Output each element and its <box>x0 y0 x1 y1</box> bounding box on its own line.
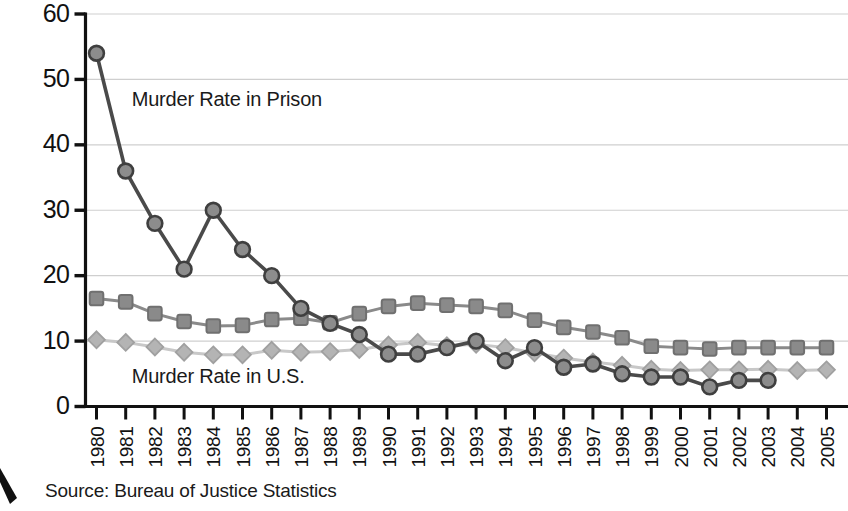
data-point-circle <box>264 268 279 283</box>
data-point-square <box>440 298 454 312</box>
line-chart-plot: 0102030405060198019811982198319841985198… <box>0 0 848 511</box>
x-axis-label: 1984 <box>203 426 224 468</box>
y-axis-label: 10 <box>43 326 70 354</box>
x-axis-label: 1996 <box>554 427 575 468</box>
data-point-diamond <box>88 331 105 348</box>
data-point-square <box>469 300 483 314</box>
data-point-diamond <box>117 334 134 351</box>
data-point-circle <box>702 379 717 394</box>
x-axis-label: 1982 <box>145 427 166 468</box>
data-point-square <box>177 315 191 329</box>
data-point-square <box>499 304 513 318</box>
data-point-circle <box>673 370 688 385</box>
series-annotation-1: Murder Rate in Prison <box>132 88 322 110</box>
x-axis-label: 2005 <box>817 427 838 468</box>
data-point-square <box>411 296 425 310</box>
data-point-circle <box>732 373 747 388</box>
x-axis-label: 1992 <box>437 427 458 468</box>
data-point-circle <box>89 46 104 61</box>
x-axis-label: 1991 <box>408 427 429 468</box>
series-annotation-2: Murder Rate in U.S. <box>132 365 305 387</box>
data-point-square <box>761 341 775 355</box>
data-point-circle <box>177 262 192 277</box>
data-point-square <box>528 313 542 327</box>
y-axis-label: 50 <box>43 64 70 92</box>
data-point-square <box>148 307 162 321</box>
data-point-square <box>207 319 221 333</box>
data-point-square <box>732 341 746 355</box>
x-axis-label: 2004 <box>787 426 808 468</box>
data-point-square <box>557 321 571 335</box>
data-point-square <box>90 292 104 306</box>
data-point-diamond <box>176 344 193 361</box>
data-point-circle <box>615 366 630 381</box>
data-point-circle <box>323 316 338 331</box>
data-point-square <box>645 340 659 354</box>
data-point-circle <box>118 164 133 179</box>
data-point-circle <box>469 334 484 349</box>
data-point-diamond <box>293 344 310 361</box>
y-axis-label: 20 <box>43 260 70 288</box>
data-point-square <box>353 307 367 321</box>
x-axis-label: 1988 <box>320 427 341 468</box>
x-axis-label: 1981 <box>116 427 137 468</box>
data-point-diamond <box>234 346 251 363</box>
data-point-circle <box>644 370 659 385</box>
x-axis-label: 1987 <box>291 427 312 468</box>
data-point-circle <box>761 373 776 388</box>
data-point-circle <box>352 327 367 342</box>
x-axis-label: 1999 <box>641 427 662 468</box>
data-point-diamond <box>789 362 806 379</box>
data-point-circle <box>294 301 309 316</box>
data-point-square <box>382 300 396 314</box>
y-axis-label: 30 <box>43 195 70 223</box>
x-axis-label: 1985 <box>233 427 254 468</box>
data-point-diamond <box>701 361 718 378</box>
x-axis-label: 1997 <box>583 427 604 468</box>
data-point-circle <box>148 216 163 231</box>
x-axis-label: 1989 <box>349 427 370 468</box>
x-axis-label: 2001 <box>700 427 721 468</box>
y-axis-label: 40 <box>43 129 70 157</box>
data-point-square <box>586 325 600 339</box>
page-corner-mark <box>0 468 20 504</box>
data-point-square <box>820 341 834 355</box>
data-point-circle <box>206 203 221 218</box>
x-axis-label: 2002 <box>729 427 750 468</box>
data-point-circle <box>381 347 396 362</box>
data-point-square <box>265 313 279 327</box>
data-point-square <box>791 341 805 355</box>
data-point-square <box>236 319 250 333</box>
data-point-diamond <box>205 346 222 363</box>
x-axis-label: 2000 <box>671 427 692 468</box>
x-axis-label: 1998 <box>612 427 633 468</box>
data-point-circle <box>586 357 601 372</box>
x-axis-label: 1994 <box>495 426 516 468</box>
data-point-circle <box>410 347 425 362</box>
data-point-diamond <box>322 343 339 360</box>
data-point-diamond <box>263 342 280 359</box>
data-point-diamond <box>818 361 835 378</box>
source-caption: Source: Bureau of Justice Statistics <box>45 480 337 502</box>
data-point-square <box>674 341 688 355</box>
x-axis-label: 1983 <box>174 427 195 468</box>
x-axis-label: 2003 <box>758 427 779 468</box>
data-point-square <box>119 295 133 309</box>
data-point-square <box>703 342 717 356</box>
x-axis-label: 1993 <box>466 426 487 467</box>
x-axis-label: 1990 <box>379 427 400 468</box>
x-axis-label: 1986 <box>262 427 283 468</box>
data-point-circle <box>498 353 513 368</box>
y-axis-label: 60 <box>43 0 70 27</box>
x-axis-label: 1980 <box>87 427 108 468</box>
data-point-circle <box>527 340 542 355</box>
data-point-diamond <box>351 341 368 358</box>
data-point-circle <box>235 242 250 257</box>
y-axis-label: 0 <box>56 391 69 419</box>
x-axis-label: 1995 <box>525 427 546 468</box>
data-point-circle <box>440 340 455 355</box>
data-point-square <box>615 331 629 345</box>
chart-container: 0102030405060198019811982198319841985198… <box>0 0 848 511</box>
data-point-circle <box>556 360 571 375</box>
